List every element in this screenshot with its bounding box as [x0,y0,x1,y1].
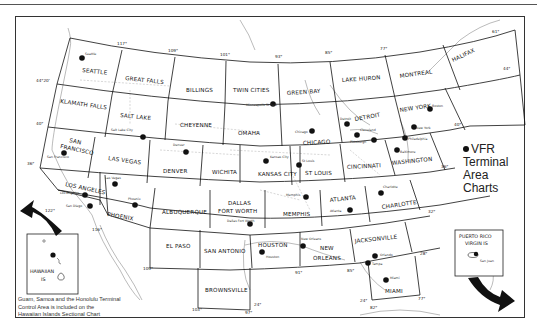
svg-text:36°: 36° [441,164,448,169]
terminal-dot-baltimore [394,147,400,153]
svg-text:Seattle: Seattle [85,52,96,56]
svg-text:44°20': 44°20' [36,78,50,83]
label-seattle: SEATTLE [82,67,108,76]
svg-text:Philadelphia: Philadelphia [408,137,427,141]
terminal-dot-st-louis [296,162,302,168]
svg-text:Orlando: Orlando [380,253,393,257]
svg-text:Boston: Boston [432,104,443,108]
label-el-paso: EL PASO [166,243,191,249]
legend: VFR Terminal Area Charts [463,143,508,195]
label-st-louis: ST LOUIS [305,170,332,176]
svg-text:San Juan: San Juan [480,259,494,263]
label-cincinnati: CINCINNATI [347,162,382,170]
label-detroit: DETROIT [354,111,381,121]
terminal-dot-new-orleans [300,243,306,249]
svg-text:116°: 116° [92,227,102,232]
label-billings: BILLINGS [186,87,213,93]
svg-text:109°: 109° [168,48,178,53]
label-phoenix: PHOENIX [107,211,134,222]
label-new-york: NEW YORK [399,103,431,113]
svg-text:San Diego: San Diego [66,204,82,208]
svg-text:28°: 28° [420,251,427,256]
terminal-dot-los-angeles [82,192,88,198]
label-miami: MIAMI [385,288,403,294]
svg-text:40°: 40° [36,121,43,126]
svg-text:Las Vegas: Las Vegas [105,176,121,180]
terminal-dot-orlando [372,253,378,259]
svg-text:Phoenix: Phoenix [128,197,141,201]
svg-text:VIRGIN IS: VIRGIN IS [465,241,488,246]
svg-text:Chicago: Chicago [295,130,308,134]
svg-text:24°: 24° [360,298,367,303]
terminal-dot-kansas-city [263,158,269,164]
terminal-dot-san-juan [474,252,478,256]
terminal-dot-miami [383,277,389,283]
svg-text:36°: 36° [27,161,34,166]
terminal-dot-cleveland [354,132,360,138]
terminal-dot-memphis [303,194,309,200]
footnote-line-2: Control Area is included on the [18,304,121,312]
svg-text:24°: 24° [254,302,261,307]
svg-text:77°: 77° [380,46,387,51]
svg-text:44°: 44° [503,66,510,71]
svg-text:Atlanta: Atlanta [330,209,341,213]
svg-text:Denver: Denver [173,143,185,147]
terminal-dot-salt-lake-city [140,134,146,140]
footnote-line-3: Hawaiian Islands Sectional Chart [18,311,121,319]
label-jacksonville: JACKSONVILLE [353,234,397,246]
svg-text:Pittsburgh: Pittsburgh [350,140,366,144]
terminal-dot-chicago [309,128,315,134]
terminal-dot-pittsburgh [371,137,377,143]
svg-text:Minneapolis St Paul: Minneapolis St Paul [246,103,277,107]
svg-text:61°: 61° [492,29,499,34]
arrow-to-puerto-rico-icon [468,277,515,312]
svg-text:117°: 117° [117,41,127,46]
svg-text:Miami: Miami [390,276,400,280]
label-memphis: MEMPHIS [283,211,311,217]
state-border-lines [80,80,380,210]
svg-text:New Orleans: New Orleans [301,237,322,241]
footnote: Guam, Samoa and the Honolulu Terminal Co… [18,296,121,319]
svg-text:85°: 85° [347,268,354,273]
svg-text:Salt Lake City: Salt Lake City [111,128,133,132]
sectional-grid [40,30,525,310]
svg-text:77°: 77° [418,296,425,301]
terminal-dot-denver [183,149,189,155]
terminal-dot-phoenix [132,202,138,208]
svg-text:40°: 40° [454,122,461,127]
svg-text:32°: 32° [428,209,435,214]
label-cheyenne: CHEYENNE [180,122,212,128]
terminal-dot-san-diego [87,203,93,209]
svg-text:Dallas Fort Worth: Dallas Fort Worth [227,219,255,223]
svg-text:103°: 103° [192,307,202,312]
svg-text:Kansas City: Kansas City [270,155,289,159]
label-albuquerque: ALBUQUERQUE [162,209,207,215]
svg-text:New York: New York [416,126,431,130]
svg-text:HAWAIIAN: HAWAIIAN [30,269,54,274]
terminal-dot-philadelphia [402,135,408,141]
terminal-dot-houston [259,249,265,255]
label-kansas-city: KANSAS CITY [258,171,297,177]
terminal-dot-atlanta [347,207,353,213]
terminal-dot-honolulu [50,252,55,257]
svg-text:101°: 101° [220,52,230,57]
label-wichita: WICHITA [212,169,237,175]
label-twin-cities: TWIN CITIES [232,87,270,93]
arrow-to-hawaii-icon [20,200,62,236]
label-omaha: OMAHA [238,130,260,136]
svg-text:Tampa: Tampa [371,262,382,266]
legend-line-4: Charts [463,182,508,195]
svg-text:82°: 82° [370,305,377,310]
svg-text:Baltimore: Baltimore [400,150,415,154]
label-denver: DENVER [163,168,187,174]
svg-text:Memphis: Memphis [286,193,301,197]
footnote-line-1: Guam, Samoa and the Honolulu Terminal [18,296,121,304]
sectional-chart-map: SEATTLE GREAT FALLS BILLINGS TWIN CITIES… [0,0,537,330]
svg-text:122°: 122° [45,208,55,213]
label-fort-worth: FORT WORTH [218,208,257,214]
label-dallas: DALLAS [228,200,251,206]
label-salt-lake: SALT LAKE [120,112,152,121]
svg-text:93°: 93° [275,54,282,59]
label-houston: HOUSTON [258,242,288,248]
label-halifax: HALIFAX [451,47,476,63]
